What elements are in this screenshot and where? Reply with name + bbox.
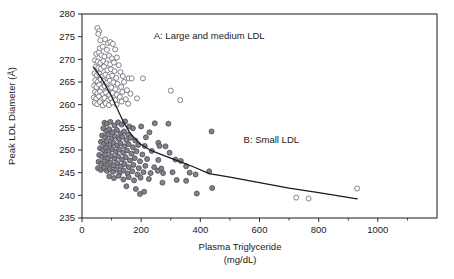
scatter-plot: 02004006008001000 2352402452502552602652… xyxy=(0,0,454,279)
data-point-filled xyxy=(130,126,135,131)
data-point-open xyxy=(114,75,119,80)
data-point-filled xyxy=(107,174,112,179)
data-point-open xyxy=(129,76,134,81)
data-point-filled xyxy=(170,170,175,175)
data-point-filled xyxy=(193,172,198,177)
data-point-open xyxy=(120,89,125,94)
x-axis-tick-labels: 02004006008001000 xyxy=(79,224,388,235)
data-point-filled xyxy=(137,159,142,164)
data-point-filled xyxy=(124,148,129,153)
data-point-filled xyxy=(131,162,136,167)
y-tick-label: 275 xyxy=(59,31,75,42)
data-point-filled xyxy=(126,165,131,170)
data-point-open xyxy=(126,101,131,106)
data-point-filled xyxy=(152,121,157,126)
annotation-label-2: B: Small LDL xyxy=(244,134,299,145)
data-point-filled xyxy=(141,170,146,175)
data-point-filled xyxy=(161,171,166,176)
y-tick-label: 250 xyxy=(59,144,75,155)
plot-annotations: A: Large and medium LDLB: Small LDL xyxy=(154,30,299,145)
data-point-open xyxy=(96,31,101,36)
x-tick-label: 0 xyxy=(79,224,84,235)
series-phenotype-b-points xyxy=(95,119,214,197)
y-tick-label: 245 xyxy=(59,167,75,178)
data-point-filled xyxy=(134,149,139,154)
data-point-open xyxy=(119,84,124,89)
data-point-open xyxy=(113,47,118,52)
data-point-filled xyxy=(143,163,148,168)
y-tick-label: 280 xyxy=(59,8,75,19)
data-point-filled xyxy=(210,186,215,191)
x-axis-units-label: (mg/dL) xyxy=(224,254,257,265)
data-point-open xyxy=(104,47,109,52)
data-point-filled xyxy=(143,135,148,140)
data-point-filled xyxy=(160,180,165,185)
y-tick-label: 260 xyxy=(59,99,75,110)
data-point-open xyxy=(116,63,121,68)
chart-figure: 02004006008001000 2352402452502552602652… xyxy=(0,0,454,279)
series-phenotype-a-points xyxy=(91,26,359,201)
data-point-filled xyxy=(194,191,199,196)
data-point-filled xyxy=(116,173,121,178)
y-tick-label: 235 xyxy=(59,212,75,223)
data-point-filled xyxy=(121,177,126,182)
x-tick-label: 800 xyxy=(311,224,327,235)
data-point-open xyxy=(120,74,125,79)
data-point-open xyxy=(114,55,119,60)
data-point-filled xyxy=(155,168,160,173)
y-tick-label: 265 xyxy=(59,76,75,87)
data-point-filled xyxy=(166,121,171,126)
data-point-filled xyxy=(108,119,113,124)
data-point-open xyxy=(306,196,311,201)
data-point-open xyxy=(98,38,103,43)
data-point-open xyxy=(355,186,360,191)
data-point-filled xyxy=(132,156,137,161)
data-point-filled xyxy=(145,157,150,162)
data-point-filled xyxy=(130,145,135,150)
y-axis-tick-labels: 235240245250255260265270275280 xyxy=(59,8,75,223)
annotation-label-1: A: Large and medium LDL xyxy=(154,30,265,41)
x-tick-label: 400 xyxy=(192,224,208,235)
data-point-filled xyxy=(146,177,151,182)
data-point-filled xyxy=(133,186,138,191)
data-point-filled xyxy=(126,142,131,147)
data-point-open xyxy=(119,99,124,104)
y-tick-label: 270 xyxy=(59,54,75,65)
data-point-filled xyxy=(163,144,168,149)
data-point-filled xyxy=(184,178,189,183)
data-point-open xyxy=(178,98,183,103)
data-point-filled xyxy=(136,166,141,171)
data-point-filled xyxy=(187,170,192,175)
data-point-filled xyxy=(138,175,143,180)
data-point-filled xyxy=(142,189,147,194)
data-point-open xyxy=(128,91,133,96)
x-tick-label: 200 xyxy=(133,224,149,235)
x-axis-title: Plasma Triglyceride xyxy=(199,241,282,252)
x-tick-label: 1000 xyxy=(367,224,388,235)
data-point-filled xyxy=(147,130,152,135)
data-point-open xyxy=(135,96,140,101)
data-point-filled xyxy=(174,177,179,182)
y-tick-label: 240 xyxy=(59,190,75,201)
data-point-filled xyxy=(129,151,134,156)
data-point-filled xyxy=(148,171,153,176)
data-point-filled xyxy=(167,150,172,155)
y-axis-ticks xyxy=(78,14,82,218)
data-point-filled xyxy=(130,169,135,174)
y-axis-title-group: Peak LDL Diameter (Å) xyxy=(6,67,17,165)
x-axis-title-group: Plasma Triglyceride (mg/dL) xyxy=(199,241,282,265)
data-point-filled xyxy=(157,143,162,148)
data-point-filled xyxy=(132,178,137,183)
data-point-filled xyxy=(139,124,144,129)
data-point-open xyxy=(294,195,299,200)
data-point-filled xyxy=(156,157,161,162)
data-point-open xyxy=(110,41,115,46)
data-point-filled xyxy=(127,158,132,163)
data-point-open xyxy=(168,88,173,93)
x-tick-label: 600 xyxy=(252,224,268,235)
y-tick-label: 255 xyxy=(59,122,75,133)
y-axis-title: Peak LDL Diameter (Å) xyxy=(6,67,17,165)
data-point-filled xyxy=(111,176,116,181)
data-point-filled xyxy=(126,175,131,180)
data-point-filled xyxy=(140,152,145,157)
